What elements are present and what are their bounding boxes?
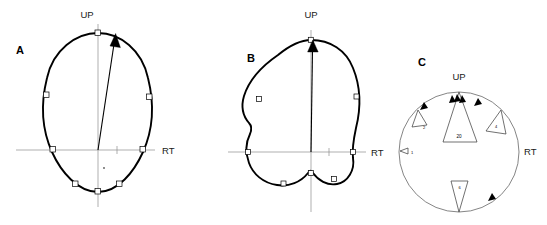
- panel-a-origin-dot: [103, 167, 105, 169]
- panel-b-rt-label: RT: [371, 147, 384, 158]
- panel-b-marker: [281, 181, 286, 186]
- panel-c-sector-20-label: 20: [456, 134, 462, 139]
- panel-a-letter: A: [16, 44, 24, 56]
- panel-a-marker: [44, 92, 50, 98]
- panel-a-marker: [50, 147, 56, 153]
- figure-container: A UP RT B UP RT: [0, 0, 547, 225]
- panel-b-up-label: UP: [304, 9, 317, 20]
- panel-b-marker: [332, 177, 337, 182]
- panel-a-marker: [95, 189, 101, 195]
- panel-b-marker: [308, 171, 313, 176]
- panel-a-marker: [147, 94, 153, 100]
- panel-c-letter: C: [418, 56, 426, 68]
- panel-b-letter: B: [247, 52, 255, 64]
- figure-svg: A UP RT B UP RT: [0, 0, 547, 225]
- panel-a-marker: [140, 147, 146, 153]
- panel-b-marker: [246, 150, 251, 155]
- panel-b-marker: [351, 150, 356, 155]
- panel-b-marker: [354, 94, 359, 99]
- panel-a-marker: [117, 181, 123, 187]
- panel-a-marker: [73, 181, 79, 187]
- panel-a-rt-label: RT: [162, 145, 175, 156]
- panel-b-marker: [257, 97, 262, 102]
- panel-a-marker: [95, 30, 101, 36]
- panel-c-rt-label: RT: [524, 146, 537, 157]
- panel-c-up-label: UP: [452, 71, 465, 82]
- panel-a-up-label: UP: [80, 9, 93, 20]
